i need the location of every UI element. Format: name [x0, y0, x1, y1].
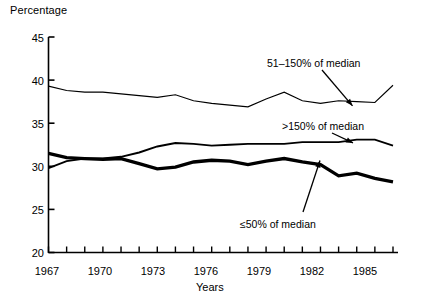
x-tick-marks [49, 247, 394, 253]
y-tick-marks [49, 37, 55, 253]
data-series-group [49, 85, 394, 182]
chart-figure: Percentage Years 45 40 35 30 25 20 1967 … [0, 0, 432, 307]
plot-area [0, 0, 432, 307]
